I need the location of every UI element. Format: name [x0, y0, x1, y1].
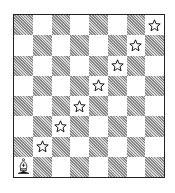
square-f7[interactable] — [108, 35, 127, 55]
square-b7[interactable] — [33, 35, 52, 55]
star-icon — [129, 39, 142, 52]
star-icon — [111, 59, 124, 72]
square-g8[interactable] — [127, 15, 146, 35]
square-b1[interactable] — [33, 157, 52, 177]
square-c8[interactable] — [52, 15, 71, 35]
star-icon — [54, 120, 67, 133]
square-h5[interactable] — [145, 76, 164, 96]
square-e2[interactable] — [89, 137, 108, 157]
square-c3[interactable] — [52, 116, 71, 136]
square-a7[interactable] — [14, 35, 33, 55]
square-h7[interactable] — [145, 35, 164, 55]
star-icon — [92, 79, 105, 92]
star-icon — [36, 140, 49, 153]
square-f3[interactable] — [108, 116, 127, 136]
square-a8[interactable] — [14, 15, 33, 35]
square-f8[interactable] — [108, 15, 127, 35]
square-b5[interactable] — [33, 76, 52, 96]
square-c1[interactable] — [52, 157, 71, 177]
square-g5[interactable] — [127, 76, 146, 96]
square-d3[interactable] — [70, 116, 89, 136]
chessboard — [13, 14, 165, 178]
square-h3[interactable] — [145, 116, 164, 136]
square-c2[interactable] — [52, 137, 71, 157]
square-g2[interactable] — [127, 137, 146, 157]
square-h6[interactable] — [145, 56, 164, 76]
square-c6[interactable] — [52, 56, 71, 76]
square-d2[interactable] — [70, 137, 89, 157]
square-a3[interactable] — [14, 116, 33, 136]
square-h2[interactable] — [145, 137, 164, 157]
star-icon — [73, 100, 86, 113]
square-a6[interactable] — [14, 56, 33, 76]
square-e5[interactable] — [89, 76, 108, 96]
square-d5[interactable] — [70, 76, 89, 96]
star-icon — [148, 19, 161, 32]
white-bishop-icon — [16, 158, 31, 175]
square-g4[interactable] — [127, 96, 146, 116]
square-e8[interactable] — [89, 15, 108, 35]
square-e7[interactable] — [89, 35, 108, 55]
square-a5[interactable] — [14, 76, 33, 96]
square-a4[interactable] — [14, 96, 33, 116]
square-d6[interactable] — [70, 56, 89, 76]
square-h4[interactable] — [145, 96, 164, 116]
square-c7[interactable] — [52, 35, 71, 55]
square-f5[interactable] — [108, 76, 127, 96]
square-a1[interactable] — [14, 157, 33, 177]
square-c4[interactable] — [52, 96, 71, 116]
square-c5[interactable] — [52, 76, 71, 96]
square-b3[interactable] — [33, 116, 52, 136]
square-d4[interactable] — [70, 96, 89, 116]
square-d7[interactable] — [70, 35, 89, 55]
square-f1[interactable] — [108, 157, 127, 177]
square-e4[interactable] — [89, 96, 108, 116]
square-b2[interactable] — [33, 137, 52, 157]
square-b4[interactable] — [33, 96, 52, 116]
square-g1[interactable] — [127, 157, 146, 177]
square-g3[interactable] — [127, 116, 146, 136]
square-f6[interactable] — [108, 56, 127, 76]
square-b8[interactable] — [33, 15, 52, 35]
square-d8[interactable] — [70, 15, 89, 35]
square-e3[interactable] — [89, 116, 108, 136]
square-g7[interactable] — [127, 35, 146, 55]
square-b6[interactable] — [33, 56, 52, 76]
square-h8[interactable] — [145, 15, 164, 35]
square-d1[interactable] — [70, 157, 89, 177]
square-e1[interactable] — [89, 157, 108, 177]
square-f4[interactable] — [108, 96, 127, 116]
square-e6[interactable] — [89, 56, 108, 76]
square-h1[interactable] — [145, 157, 164, 177]
square-a2[interactable] — [14, 137, 33, 157]
square-f2[interactable] — [108, 137, 127, 157]
square-g6[interactable] — [127, 56, 146, 76]
